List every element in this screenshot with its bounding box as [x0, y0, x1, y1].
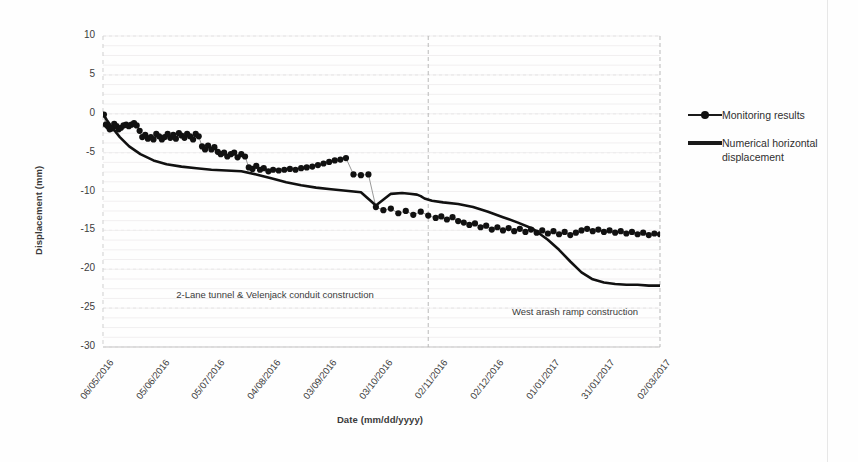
monitoring-point	[646, 232, 652, 238]
monitoring-point	[444, 216, 450, 222]
monitoring-point	[612, 230, 618, 236]
monitoring-point	[573, 230, 579, 236]
monitoring-point	[534, 230, 540, 236]
monitoring-point	[433, 215, 439, 221]
monitoring-point	[438, 213, 444, 219]
monitoring-point	[556, 231, 562, 237]
monitoring-point	[350, 171, 356, 177]
monitoring-point	[562, 229, 568, 235]
y-tick-label: -10	[65, 185, 95, 196]
legend-label-monitoring: Monitoring results	[722, 108, 805, 122]
monitoring-point	[373, 204, 379, 210]
annotation-left-phase: 2-Lane tunnel & Velenjack conduit constr…	[150, 288, 400, 302]
monitoring-point	[477, 224, 483, 230]
y-tick-label: -15	[65, 223, 95, 234]
monitoring-point	[134, 122, 140, 128]
monitoring-point	[522, 229, 528, 235]
monitoring-point	[461, 220, 467, 226]
monitoring-point	[173, 136, 179, 142]
monitoring-point	[578, 227, 584, 233]
monitoring-point	[320, 160, 326, 166]
annotation-right-phase: West arash ramp construction	[480, 305, 670, 319]
monitoring-point	[629, 229, 635, 235]
monitoring-point	[634, 231, 640, 237]
monitoring-point	[601, 229, 607, 235]
monitoring-point	[287, 166, 293, 172]
monitoring-point	[584, 226, 590, 232]
monitoring-point	[455, 218, 461, 224]
chart-plot	[0, 0, 858, 462]
monitoring-point	[315, 162, 321, 168]
monitoring-point	[388, 206, 394, 212]
y-tick-label: -30	[65, 340, 95, 351]
x-axis-title: Date (mm/dd/yyyy)	[0, 414, 760, 425]
monitoring-point	[567, 232, 573, 238]
monitoring-point	[309, 164, 315, 170]
monitoring-point	[606, 227, 612, 233]
monitoring-point	[545, 230, 551, 236]
monitoring-point	[640, 230, 646, 236]
monitoring-point	[595, 227, 601, 233]
monitoring-point	[418, 209, 424, 215]
monitoring-point	[506, 225, 512, 231]
monitoring-point	[270, 167, 276, 173]
monitoring-point	[395, 210, 401, 216]
monitoring-point	[590, 228, 596, 234]
monitoring-point	[281, 167, 287, 173]
monitoring-point	[550, 228, 556, 234]
legend-entry-monitoring: Monitoring results	[688, 108, 858, 122]
monitoring-point	[651, 230, 657, 236]
monitoring-point	[292, 167, 298, 173]
monitoring-point	[528, 227, 534, 233]
chart-legend: Monitoring results Numerical horizontal …	[688, 108, 858, 179]
y-axis-title: Displacement (mm)	[33, 166, 44, 255]
monitoring-point	[623, 230, 629, 236]
legend-entry-numerical: Numerical horizontal displacement	[688, 136, 858, 164]
monitoring-point	[483, 223, 489, 229]
legend-marker-line-icon	[688, 109, 722, 121]
y-tick-label: 10	[65, 29, 95, 40]
monitoring-point	[196, 133, 202, 139]
legend-thick-line-icon	[688, 137, 722, 149]
monitoring-point	[449, 214, 455, 220]
monitoring-point	[326, 159, 332, 165]
y-tick-label: -5	[65, 146, 95, 157]
monitoring-point	[618, 228, 624, 234]
monitoring-point	[517, 226, 523, 232]
monitoring-point	[500, 227, 506, 233]
monitoring-point	[466, 222, 472, 228]
monitoring-point	[242, 153, 248, 159]
monitoring-point	[410, 212, 416, 218]
legend-label-numerical: Numerical horizontal displacement	[722, 136, 858, 164]
monitoring-point	[425, 213, 431, 219]
monitoring-point	[332, 157, 338, 163]
monitoring-point	[101, 111, 107, 117]
monitoring-point	[380, 207, 386, 213]
monitoring-point	[511, 228, 517, 234]
monitoring-point	[403, 208, 409, 214]
y-tick-label: -20	[65, 262, 95, 273]
monitoring-point	[494, 224, 500, 230]
monitoring-point	[358, 172, 364, 178]
monitoring-point	[137, 128, 143, 134]
monitoring-point	[365, 171, 371, 177]
monitoring-point	[489, 227, 495, 233]
monitoring-point	[298, 165, 304, 171]
y-tick-label: -25	[65, 301, 95, 312]
chart-figure: 1050-5-10-15-20-25-30 06/05/201605/06/20…	[0, 0, 858, 462]
monitoring-point	[190, 136, 196, 142]
monitoring-point	[150, 136, 156, 142]
y-tick-label: 0	[65, 107, 95, 118]
monitoring-point	[276, 167, 282, 173]
monitoring-result-points	[101, 111, 663, 238]
monitoring-point	[343, 155, 349, 161]
monitoring-point	[657, 231, 663, 237]
monitoring-point	[539, 227, 545, 233]
y-tick-label: 5	[65, 68, 95, 79]
monitoring-point	[337, 157, 343, 163]
monitoring-point	[472, 220, 478, 226]
monitoring-point	[304, 164, 310, 170]
